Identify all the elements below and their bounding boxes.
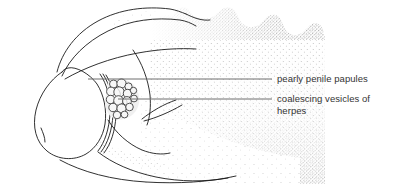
medical-illustration-figure: pearly penile papules coalescing vesicle…: [0, 0, 399, 184]
label-coalescing-vesicles-of-herpes: coalescing vesicles of herpes: [277, 93, 370, 116]
illustration-canvas: [0, 0, 399, 184]
stipple-shading-group: [96, 0, 399, 184]
glans-notch: [41, 128, 45, 142]
label-pearly-penile-papules: pearly penile papules: [277, 73, 368, 85]
vesicle-15: [113, 111, 121, 119]
glans-outline: [34, 68, 105, 159]
vesicle-7: [130, 87, 136, 93]
vesicle-16: [121, 111, 128, 118]
